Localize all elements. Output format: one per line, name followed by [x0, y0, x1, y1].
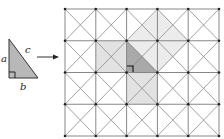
grid-vertex — [156, 39, 159, 42]
grid-vertex — [156, 8, 159, 11]
grid-vertex — [95, 71, 98, 74]
grid-vertex — [64, 39, 67, 42]
arrow-icon — [37, 55, 59, 60]
grid-vertex — [64, 135, 67, 138]
grid-vertex — [218, 71, 221, 74]
grid-vertex — [156, 71, 159, 74]
label-b: b — [20, 81, 26, 92]
grid-vertex — [156, 103, 159, 106]
grid-vertex — [125, 71, 128, 74]
grid-vertex — [187, 39, 190, 42]
grid-vertex — [218, 39, 221, 42]
pythagorean-grid-diagram: a b c — [0, 0, 224, 139]
label-c: c — [25, 44, 31, 55]
reference-triangle: a b c — [1, 39, 38, 92]
grid-vertex — [125, 135, 128, 138]
grid-vertex — [218, 135, 221, 138]
grid-vertex — [187, 71, 190, 74]
grid-vertex — [95, 135, 98, 138]
grid-vertex — [95, 103, 98, 106]
grid-vertex — [95, 8, 98, 11]
grid-vertex — [187, 135, 190, 138]
grid-vertex — [187, 103, 190, 106]
grid-vertex — [187, 8, 190, 11]
grid-vertex — [125, 103, 128, 106]
grid-vertex — [64, 103, 67, 106]
grid-vertex — [125, 39, 128, 42]
grid-vertex — [218, 8, 221, 11]
grid-vertex — [125, 8, 128, 11]
label-a: a — [1, 53, 7, 64]
grid-vertex — [95, 39, 98, 42]
grid-vertex — [64, 8, 67, 11]
grid-vertex — [64, 71, 67, 74]
grid-vertex — [218, 103, 221, 106]
grid-vertex — [156, 135, 159, 138]
